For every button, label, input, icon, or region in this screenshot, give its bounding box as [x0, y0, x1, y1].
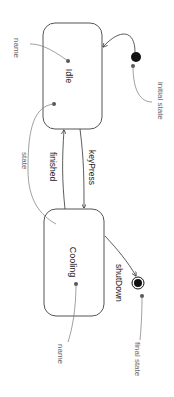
annotation-state: state: [20, 152, 29, 170]
final-state-icon: [132, 277, 144, 289]
state-idle[interactable]: Idle: [43, 23, 102, 129]
transition-shutdown-label: shutDown: [114, 264, 124, 302]
transition-initial-idle: [103, 34, 135, 52]
state-cooling[interactable]: Cooling: [44, 209, 104, 316]
state-idle-label: Idle: [64, 69, 74, 84]
initial-state-icon: [131, 52, 141, 62]
transition-keypress: [80, 129, 84, 208]
annotation-initial-state: initial state: [156, 82, 165, 120]
state-diagram: Idle Cooling keyPress finished shutDown …: [0, 0, 174, 397]
transition-finished: [63, 130, 65, 209]
annotation-final-state: final state: [133, 342, 142, 377]
transition-keypress-label: keyPress: [87, 150, 97, 185]
annotation-idle-name: name: [12, 38, 21, 59]
transition-finished-label: finished: [48, 152, 58, 182]
state-cooling-label: Cooling: [68, 247, 78, 278]
annotation-cooling-name: name: [56, 344, 65, 365]
